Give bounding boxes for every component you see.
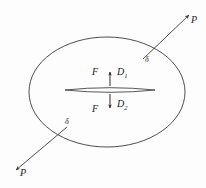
crack-lens (65, 88, 155, 93)
load-arrow-top-right (143, 15, 189, 59)
load-arrow-bottom-left (16, 127, 67, 170)
displacement-label-lower: D2 (117, 99, 127, 112)
displacement-label-lower-subscript: 2 (124, 104, 127, 111)
load-label-top-right: P (191, 15, 197, 25)
fracture-mechanics-diagram: P P F F D1 D2 δ δ (0, 0, 206, 188)
displacement-label-upper-subscript: 1 (124, 72, 127, 79)
diagram-canvas (0, 0, 206, 188)
force-label-lower: F (92, 104, 98, 114)
boundary-label-upper: δ (145, 56, 149, 64)
load-label-bottom-left: P (20, 168, 26, 178)
boundary-label-lower: δ (65, 118, 69, 126)
force-label-upper: F (92, 67, 98, 77)
displacement-label-upper: D1 (117, 67, 127, 80)
